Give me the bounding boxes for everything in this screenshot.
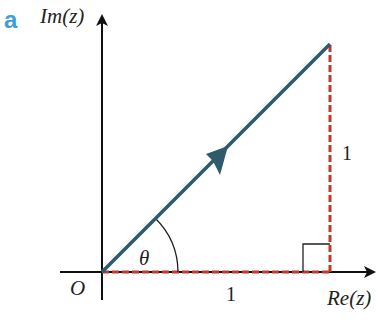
right-angle-marker xyxy=(303,244,330,272)
vector-arrowhead xyxy=(206,146,228,175)
horizontal-side-label: 1 xyxy=(226,283,236,306)
origin-label: O xyxy=(70,276,85,301)
vertical-side-label: 1 xyxy=(342,142,352,165)
angle-arc xyxy=(155,218,178,272)
imaginary-axis-label: Im(z) xyxy=(40,4,84,29)
argand-diagram: a Im(z) O θ 1 1 Re(z) xyxy=(0,0,380,320)
diagram-canvas xyxy=(0,0,380,320)
real-axis-label: Re(z) xyxy=(327,286,371,311)
part-label: a xyxy=(4,6,17,34)
angle-theta-label: θ xyxy=(139,246,149,271)
